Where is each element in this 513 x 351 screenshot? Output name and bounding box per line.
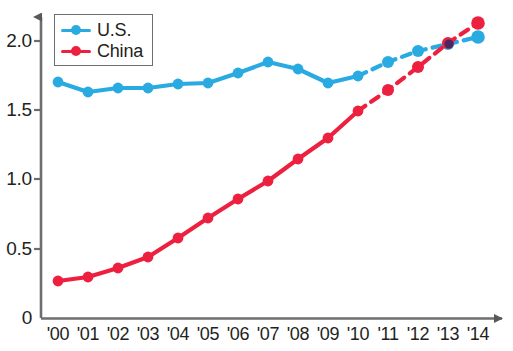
x-label-00: '00 (41, 324, 75, 345)
legend-item-china[interactable]: China (61, 40, 143, 61)
legend-label-china: China (97, 42, 143, 60)
x-label-12: '12 (401, 324, 435, 345)
x-label-10: '10 (341, 324, 375, 345)
legend-item-us[interactable]: U.S. (61, 19, 143, 40)
line-chart: (cut off at top of image) (0, 0, 513, 351)
x-label-09: '09 (311, 324, 345, 345)
chart-legend: U.S. China (54, 14, 153, 66)
legend-label-us: U.S. (97, 21, 131, 39)
x-label-05: '05 (191, 324, 225, 345)
x-label-06: '06 (221, 324, 255, 345)
x-label-04: '04 (161, 324, 195, 345)
x-label-11: '11 (371, 324, 405, 345)
legend-swatch-china-icon (61, 44, 91, 58)
x-label-07: '07 (251, 324, 285, 345)
x-label-02: '02 (101, 324, 135, 345)
x-label-03: '03 (131, 324, 165, 345)
legend-swatch-us-icon (61, 23, 91, 37)
x-label-08: '08 (281, 324, 315, 345)
x-label-14: '14 (461, 324, 495, 345)
x-label-01: '01 (71, 324, 105, 345)
x-label-13: '13 (431, 324, 465, 345)
